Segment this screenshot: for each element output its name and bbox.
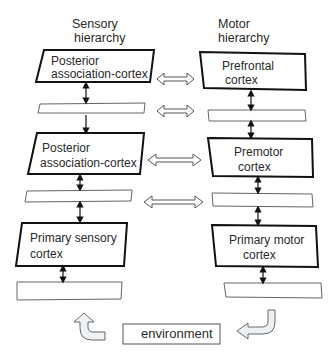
motor-thin-box-3 xyxy=(224,283,322,298)
motor-box-1-line2: cortex xyxy=(225,73,258,87)
sensory-thin-box-2 xyxy=(25,190,132,202)
motor-box-2-line1: Premotor xyxy=(234,145,283,159)
motor-box-2-line2: cortex xyxy=(238,160,271,174)
sensory-thin-box-1 xyxy=(38,103,145,113)
sensory-box-2-line2: association-cortex xyxy=(40,156,137,170)
curved-arrow-up-icon xyxy=(74,313,105,340)
motor-thin-box-2 xyxy=(212,193,313,207)
double-arrow-icon xyxy=(144,196,203,208)
double-arrow-icon xyxy=(157,105,194,117)
motor-header-line1: Motor xyxy=(218,17,250,32)
curved-arrow-left-icon xyxy=(237,310,275,339)
sensory-box-1-line2: association-cortex xyxy=(51,67,148,81)
motor-box-3-line2: cortex xyxy=(243,248,276,262)
double-arrow-icon xyxy=(148,154,201,166)
sensory-box-2-line1: Posterior xyxy=(42,141,90,155)
sensory-header-line2: hierarchy xyxy=(74,31,125,46)
sensory-box-3-line2: cortex xyxy=(30,247,63,261)
environment-label: environment xyxy=(141,327,213,341)
motor-header-line2: hierarchy xyxy=(218,31,269,46)
motor-box-1-line1: Prefrontal xyxy=(222,59,274,73)
sensory-box-3-line1: Primary sensory xyxy=(30,231,117,245)
sensory-header-line1: Sensory xyxy=(72,17,118,32)
motor-box-3-line1: Primary motor xyxy=(229,233,304,247)
sensory-box-1-line1: Posterior xyxy=(51,54,99,68)
double-arrow-icon xyxy=(157,73,194,85)
sensory-thin-box-3 xyxy=(17,282,122,300)
motor-thin-box-1 xyxy=(208,110,306,121)
